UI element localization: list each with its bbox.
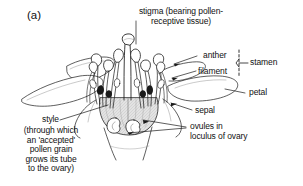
label-anther: anther — [203, 51, 227, 61]
style-shape — [124, 44, 131, 100]
label-sepal: sepal — [195, 106, 215, 116]
panel-letter: (a) — [27, 9, 41, 21]
label-style-note: (through which an 'accepted' pollen grai… — [5, 126, 97, 174]
label-stamen: stamen — [250, 58, 277, 68]
label-ovules: ovules in loculus of ovary — [190, 122, 247, 141]
label-stigma: stigma (bearing pollen- receptive tissue… — [122, 7, 240, 26]
label-filament: filament — [198, 67, 227, 77]
label-petal: petal — [249, 88, 267, 98]
figure-panel: (a) stigma (bearing pollen- receptive ti… — [0, 0, 303, 186]
anther-shading-marks — [97, 85, 153, 98]
stigma-shape — [122, 34, 134, 45]
label-style: style — [42, 115, 59, 125]
stamen-bracket — [236, 50, 248, 76]
ovule-shape-left — [107, 118, 120, 133]
